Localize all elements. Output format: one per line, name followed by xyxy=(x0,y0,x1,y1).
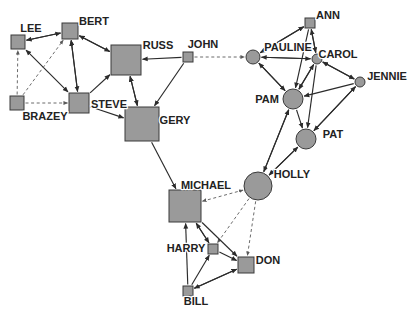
edge-holly-don xyxy=(247,201,255,255)
node-bert[interactable] xyxy=(62,23,78,39)
node-label-gery: GERY xyxy=(160,114,191,126)
node-jennie[interactable] xyxy=(355,77,365,87)
node-label-bill: BILL xyxy=(184,295,209,307)
edge-jennie-carol xyxy=(323,62,355,79)
node-label-carol: CAROL xyxy=(318,48,357,60)
node-harry[interactable] xyxy=(208,244,218,254)
node-john[interactable] xyxy=(183,52,193,62)
node-label-steve: STEVE xyxy=(91,98,127,110)
node-label-michael: MICHAEL xyxy=(181,179,231,191)
node-label-jennie: JENNIE xyxy=(367,70,407,82)
edge-jennie-pat xyxy=(314,87,356,131)
node-pauline[interactable] xyxy=(246,50,260,64)
node-brazey[interactable] xyxy=(10,96,24,110)
edge-carol-pauline xyxy=(262,57,311,59)
node-layer xyxy=(10,18,365,296)
node-label-ann: ANN xyxy=(316,9,340,21)
edge-bert-lee xyxy=(26,33,60,40)
edge-john-russ xyxy=(143,57,182,59)
edge-bill-michael xyxy=(186,224,188,285)
edge-harry-michael xyxy=(196,223,209,242)
edge-steve-bert xyxy=(71,40,77,91)
node-label-pauline: PAULINE xyxy=(264,41,311,53)
node-label-brazey: BRAZEY xyxy=(22,110,68,122)
edge-carol-pat xyxy=(308,65,317,127)
edge-pam-pauline xyxy=(259,63,285,91)
edge-lee-steve xyxy=(26,50,68,92)
edge-russ-bert xyxy=(79,36,109,52)
node-label-bert: BERT xyxy=(79,15,109,27)
node-label-john: JOHN xyxy=(188,38,219,50)
node-michael[interactable] xyxy=(169,190,201,222)
edge-carol-ann xyxy=(311,29,316,52)
node-pat[interactable] xyxy=(296,129,316,149)
label-layer: LEEBERTBRAZEYSTEVERUSSGERYJOHNMICHAELHAR… xyxy=(20,9,407,307)
node-label-holly: HOLLY xyxy=(274,168,311,180)
edge-pam-pat xyxy=(297,110,303,128)
node-don[interactable] xyxy=(238,257,254,273)
edge-brazey-lee xyxy=(17,51,18,95)
edge-holly-harry xyxy=(217,199,249,243)
node-label-harry: HARRY xyxy=(167,242,206,254)
edge-holly-pam xyxy=(264,110,289,172)
edge-bill-harry xyxy=(192,255,210,284)
edge-michael-holly xyxy=(202,190,243,201)
edge-pam-carol xyxy=(299,65,314,90)
edge-brazey-bert xyxy=(23,40,63,95)
node-label-pam: PAM xyxy=(255,93,279,105)
network-canvas: LEEBERTBRAZEYSTEVERUSSGERYJOHNMICHAELHAR… xyxy=(0,0,415,314)
node-holly[interactable] xyxy=(244,172,272,200)
node-steve[interactable] xyxy=(69,93,89,113)
node-label-russ: RUSS xyxy=(143,39,174,51)
node-gery[interactable] xyxy=(125,107,159,141)
node-russ[interactable] xyxy=(111,45,141,75)
node-label-don: DON xyxy=(256,254,281,266)
node-ann[interactable] xyxy=(305,18,315,28)
edge-gery-russ xyxy=(130,76,137,105)
edge-gery-michael xyxy=(152,142,176,188)
node-label-pat: PAT xyxy=(323,128,344,140)
node-label-lee: LEE xyxy=(20,22,41,34)
edge-don-bill xyxy=(194,269,236,288)
edge-steve-russ xyxy=(90,75,110,93)
network-diagram: LEEBERTBRAZEYSTEVERUSSGERYJOHNMICHAELHAR… xyxy=(0,0,415,314)
node-pam[interactable] xyxy=(283,89,303,109)
edge-john-gery xyxy=(155,63,184,106)
node-lee[interactable] xyxy=(11,35,25,49)
